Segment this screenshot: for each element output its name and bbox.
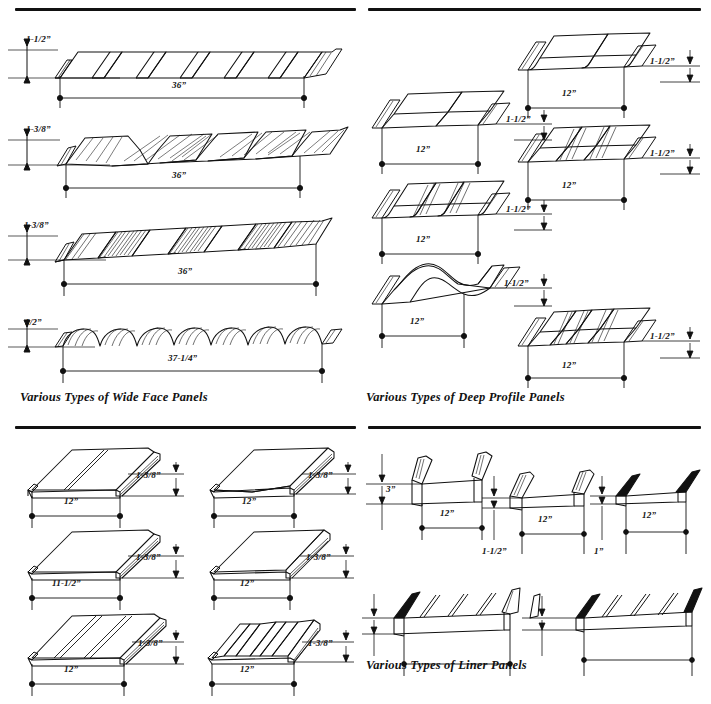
figure-ff-4: 1-3/8” 12” xyxy=(190,522,360,612)
dim-ln-2-width: 12” xyxy=(538,514,552,524)
dim-wf-2-width: 36” xyxy=(172,170,186,180)
dim-wf-3-width: 36” xyxy=(178,266,192,276)
dim-dp-6-depth: 1-1/2” xyxy=(650,331,675,341)
dim-dp-5-width: 12” xyxy=(410,316,424,326)
figure-wf-4: 1/2” 37-1/4” xyxy=(0,305,360,385)
section-liner-panels: 3” 12” xyxy=(360,426,711,704)
dim-dp-2-width: 12” xyxy=(416,144,430,154)
figure-wf-3: 1-3/8” 36” xyxy=(0,210,360,296)
dim-ff-4-depth: 1-3/8” xyxy=(306,552,331,562)
dim-wf-1-width: 36” xyxy=(172,80,186,90)
dim-ff-6-depth: 1-3/8” xyxy=(308,638,333,648)
dim-ff-2-width: 12” xyxy=(242,496,256,506)
dim-dp-3-depth: 1-1/2” xyxy=(650,148,675,158)
dim-dp-1-depth: 1-1/2” xyxy=(650,56,675,66)
panel-reference-sheet: 1-1/2” 36” xyxy=(0,0,711,704)
dim-ff-3-width: 11-1/2” xyxy=(52,578,81,588)
figure-wf-2: 1-3/8” 36” xyxy=(0,110,360,198)
dim-ff-5-depth: 1-3/8” xyxy=(138,638,163,648)
figure-ln-3: 1” 12” xyxy=(588,462,711,562)
section-flat-face-panels: 1-3/8” 12” xyxy=(0,426,360,704)
dim-ff-3-depth: 1-3/8” xyxy=(136,552,161,562)
figure-dp-6: 1-1/2” 12” xyxy=(510,290,710,390)
dim-ff-1-width: 12” xyxy=(64,496,78,506)
figure-ff-3: 1-3/8” 11-1/2” xyxy=(8,522,188,612)
dim-wf-4-width: 37-1/4” xyxy=(168,353,197,363)
caption-deep-profile-panels: Various Types of Deep Profile Panels xyxy=(366,390,565,405)
dim-ln-3-width: 12” xyxy=(642,510,656,520)
dim-wf-2-depth: 1-3/8” xyxy=(26,124,51,134)
dim-wf-1-depth: 1-1/2” xyxy=(26,34,51,44)
dim-ff-1-depth: 1-3/8” xyxy=(136,470,161,480)
dim-ff-5-width: 12” xyxy=(64,664,78,674)
dim-wf-4-depth: 1/2” xyxy=(25,317,42,327)
section-deep-profile-panels: 1-1/2” 12” xyxy=(360,0,711,420)
dim-wf-3-depth: 1-3/8” xyxy=(24,220,49,230)
caption-liner-panels: Various Types of Liner Panels xyxy=(366,658,527,673)
figure-ln-5: 1-3/8” 24” xyxy=(520,572,710,682)
dim-dp-5-depth: 1-1/2” xyxy=(504,278,529,288)
figure-ff-2: 1-3/8” 12” xyxy=(190,440,360,530)
dim-ln-1-depth: 3” xyxy=(386,484,395,494)
dim-ff-6-width: 12” xyxy=(240,664,254,674)
figure-ff-1: 1-3/8” 12” xyxy=(8,440,188,530)
dim-dp-4-depth: 1-1/2” xyxy=(506,204,531,214)
dim-ff-2-depth: 1-3/8” xyxy=(308,470,333,480)
dim-dp-1-width: 12” xyxy=(562,88,576,98)
section-wide-face-panels: 1-1/2” 36” xyxy=(0,0,360,420)
figure-ff-5: 1-3/8” 12” xyxy=(8,606,188,698)
figure-wf-1: 1-1/2” 36” xyxy=(0,18,360,108)
dim-dp-4-width: 12” xyxy=(416,234,430,244)
dim-ff-4-width: 12” xyxy=(240,578,254,588)
dim-dp-6-width: 12” xyxy=(562,360,576,370)
dim-ln-2-depth: 1-1/2” xyxy=(482,546,507,556)
dim-ln-1-width: 12” xyxy=(440,508,454,518)
dim-dp-3-width: 12” xyxy=(562,180,576,190)
caption-wide-face-panels: Various Types of Wide Face Panels xyxy=(20,390,208,405)
figure-ff-6: 1-3/8” 12” xyxy=(190,606,360,698)
dim-ln-3-depth: 1” xyxy=(594,546,603,556)
